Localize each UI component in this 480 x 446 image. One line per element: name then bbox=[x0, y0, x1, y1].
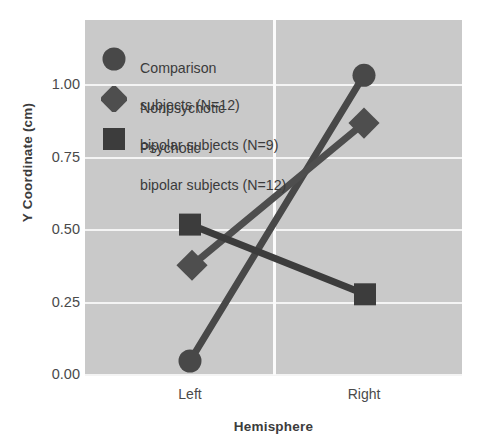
diamond-marker-icon bbox=[101, 86, 127, 112]
y-tick-label: 0.00 bbox=[52, 366, 80, 382]
figure-container: Comparison subjects (N=12) Nonpsychotic … bbox=[0, 0, 480, 446]
data-point-comparison-left bbox=[179, 350, 202, 373]
y-axis-label: Y Coordinate (cm) bbox=[20, 73, 35, 253]
x-tick-label: Left bbox=[178, 386, 201, 402]
legend: Comparison subjects (N=12) Nonpsychotic … bbox=[93, 42, 325, 162]
y-tick-0.50: 0.50 bbox=[0, 221, 80, 237]
y-tick-label: 0.75 bbox=[52, 149, 80, 165]
data-point-comparison-right bbox=[353, 64, 376, 87]
circle-marker-icon bbox=[101, 46, 127, 72]
legend-label-line1: Nonpsychotic bbox=[140, 100, 225, 116]
y-tick-0.25: 0.25 bbox=[0, 294, 80, 310]
legend-item-nonpsychotic-bipolar-subjects: Nonpsychotic bipolar subjects (N=9) bbox=[93, 82, 325, 122]
y-tick-label: 0.50 bbox=[52, 221, 80, 237]
y-tick-0.00: 0.00 bbox=[0, 366, 80, 382]
y-tick-1.00: 1.00 bbox=[0, 76, 80, 92]
data-point-psychotic-left bbox=[179, 214, 201, 236]
x-tick-right: Right bbox=[304, 386, 424, 402]
x-axis-label: Hemisphere bbox=[85, 419, 462, 434]
data-point-psychotic-right bbox=[354, 283, 376, 305]
x-tick-label: Right bbox=[348, 386, 381, 402]
legend-label-line2: bipolar subjects (N=12) bbox=[140, 177, 286, 193]
legend-label-line1: Psychotic bbox=[140, 140, 201, 156]
series-psychotic-bipolar-subjects bbox=[179, 214, 376, 306]
legend-label-psychotic-bipolar-subjects: Psychotic bipolar subjects (N=12) bbox=[140, 120, 286, 194]
legend-item-psychotic-bipolar-subjects: Psychotic bipolar subjects (N=12) bbox=[93, 122, 325, 162]
square-marker-icon bbox=[101, 126, 127, 152]
legend-label-line1: Comparison bbox=[140, 60, 217, 76]
y-tick-label: 0.25 bbox=[52, 294, 80, 310]
series-line-psychotic bbox=[190, 225, 365, 295]
y-tick-label: 1.00 bbox=[52, 76, 80, 92]
x-tick-left: Left bbox=[130, 386, 250, 402]
legend-item-comparison-subjects: Comparison subjects (N=12) bbox=[93, 42, 325, 82]
plot-panel: Comparison subjects (N=12) Nonpsychotic … bbox=[85, 20, 462, 375]
y-tick-0.75: 0.75 bbox=[0, 149, 80, 165]
